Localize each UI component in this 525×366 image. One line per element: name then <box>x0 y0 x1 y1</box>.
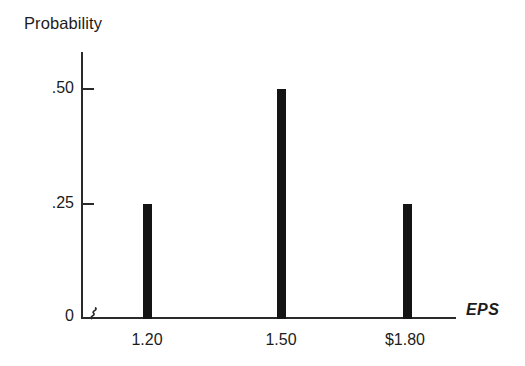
bar-1-20 <box>143 204 152 319</box>
x-tick-label-1-20: 1.20 <box>107 331 187 349</box>
axis-break-icon <box>87 303 103 320</box>
x-tick-label-1-50: 1.50 <box>241 331 321 349</box>
y-tick-label-50: .50 <box>28 79 74 97</box>
y-tick-mark-25 <box>83 203 94 205</box>
y-tick-label-25: .25 <box>28 194 74 212</box>
probability-distribution-chart: Probability .50 .25 0 1.20 1.50 $1.80 EP… <box>0 0 525 366</box>
y-axis-title: Probability <box>24 14 102 33</box>
x-tick-label-1-80: $1.80 <box>365 331 445 349</box>
bar-1-50 <box>277 89 286 319</box>
x-axis-title: EPS <box>466 301 499 319</box>
bar-1-80 <box>403 204 412 319</box>
origin-label: 0 <box>28 307 74 325</box>
y-axis-line <box>81 52 83 319</box>
x-axis-line <box>81 317 456 319</box>
y-tick-mark-50 <box>83 88 94 90</box>
